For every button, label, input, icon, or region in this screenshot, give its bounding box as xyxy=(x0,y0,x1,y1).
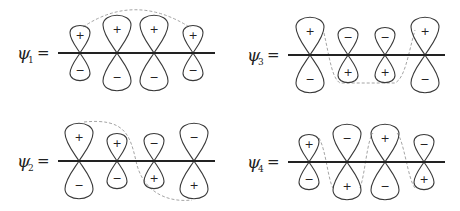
top-lobe-sign: + xyxy=(112,137,121,150)
top-lobe-sign: + xyxy=(420,25,429,38)
bottom-lobe-sign: + xyxy=(149,172,158,185)
top-lobe-sign: − xyxy=(342,132,351,145)
bottom-lobe-sign: + xyxy=(189,179,198,192)
bottom-lobe-sign: − xyxy=(75,64,84,77)
top-lobe-sign: + xyxy=(304,138,313,151)
bottom-lobe-sign: − xyxy=(112,172,121,185)
top-lobe-sign: + xyxy=(149,23,158,36)
bottom-lobe-sign: − xyxy=(74,179,83,192)
envelope-curve-psi4-c xyxy=(397,133,415,188)
top-lobe-sign: + xyxy=(74,131,83,144)
psi-subscript: 1 xyxy=(28,55,34,65)
equals-sign: = xyxy=(267,46,280,64)
bottom-lobe-sign: + xyxy=(380,66,389,79)
bottom-lobe-sign: + xyxy=(343,66,352,79)
bottom-lobe-sign: − xyxy=(188,64,197,77)
psi-subscript: 2 xyxy=(28,163,34,173)
envelope-curve-psi1 xyxy=(83,10,191,28)
equals-sign: = xyxy=(37,44,50,62)
bottom-lobe-sign: − xyxy=(304,173,313,186)
top-lobe-sign: − xyxy=(149,137,158,150)
bottom-lobe-sign: − xyxy=(112,71,121,84)
top-lobe-sign: + xyxy=(305,25,314,38)
equals-sign: = xyxy=(37,152,50,170)
top-lobe-sign: + xyxy=(112,23,121,36)
top-lobe-sign: − xyxy=(419,138,428,151)
panel-psi4: +−−++−−+ ψ 4 = xyxy=(247,124,445,200)
psi-subscript: 4 xyxy=(258,164,264,174)
equals-sign: = xyxy=(267,153,280,171)
top-lobe-sign: + xyxy=(188,29,197,42)
top-lobe-sign: − xyxy=(343,31,352,44)
panel-psi1: +−+−+−+− ψ 1 = xyxy=(17,10,215,91)
psi-subscript: 3 xyxy=(258,57,264,67)
bottom-lobe-sign: − xyxy=(380,180,389,193)
bottom-lobe-sign: − xyxy=(305,73,314,86)
bottom-lobe-sign: − xyxy=(420,73,429,86)
envelope-curve-psi4-b xyxy=(360,133,373,188)
bottom-lobe-sign: − xyxy=(149,71,158,84)
top-lobe-sign: − xyxy=(380,31,389,44)
bottom-lobe-sign: + xyxy=(342,180,351,193)
panel-psi3: +−−+−++− ψ 3 = xyxy=(247,17,445,93)
top-lobe-sign: + xyxy=(75,29,84,42)
bottom-lobe-sign: + xyxy=(419,173,428,186)
top-lobe-sign: + xyxy=(380,132,389,145)
orbital-diagram: +−+−+−+− ψ 1 = +−+−−+−+ ψ 2 = +−−+−++− ψ… xyxy=(0,0,460,211)
top-lobe-sign: − xyxy=(189,131,198,144)
panel-psi2: +−+−−+−+ ψ 2 = xyxy=(17,121,215,200)
